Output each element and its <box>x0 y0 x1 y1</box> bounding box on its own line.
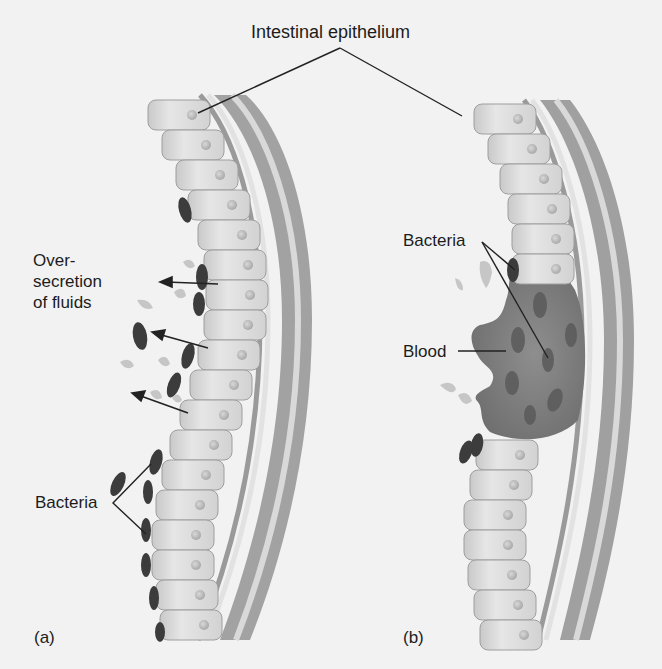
panel-a-illustration <box>107 95 312 642</box>
intestine-illustration <box>0 0 662 669</box>
figure-canvas: Intestinal epithelium Over- secretion of… <box>0 0 662 669</box>
title-label: Intestinal epithelium <box>251 22 410 43</box>
over-secretion-label-line3: of fluids <box>33 292 92 313</box>
over-secretion-label-line2: secretion <box>33 271 102 292</box>
over-secretion-label-line1: Over- <box>33 250 76 271</box>
blood-label: Blood <box>403 341 446 362</box>
panel-b-illustration <box>440 100 634 650</box>
panel-a-tag: (a) <box>34 627 55 648</box>
bacteria-label-a: Bacteria <box>35 492 97 513</box>
panel-b-tag: (b) <box>403 627 424 648</box>
bacteria-label-b: Bacteria <box>403 230 465 251</box>
